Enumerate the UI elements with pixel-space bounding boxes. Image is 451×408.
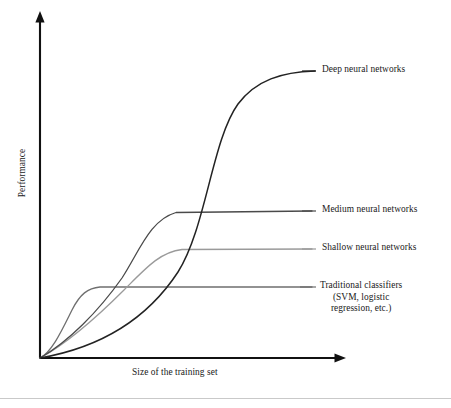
page-bottom-rule [0, 398, 451, 399]
curve-deep-neural-networks [40, 71, 315, 358]
series-label-medium-text: Medium neural networks [322, 204, 417, 216]
series-label-deep: Deep neural networks [322, 64, 405, 76]
series-label-traditional-line3: regression, etc.) [320, 303, 402, 315]
series-label-traditional-line2: (SVM, logistic [320, 292, 402, 304]
series-label-shallow-text: Shallow neural networks [322, 242, 416, 254]
x-axis-title: Size of the training set [132, 367, 218, 377]
series-label-traditional-line1: Traditional classifiers [320, 280, 402, 292]
series-label-medium: Medium neural networks [322, 204, 417, 216]
curve-medium-neural-networks [40, 211, 312, 358]
y-axis-arrow-icon [35, 11, 44, 23]
performance-vs-training-set-chart: Deep neural networks Medium neural netwo… [0, 0, 451, 408]
y-axis-title: Performance [17, 138, 27, 208]
series-label-traditional: Traditional classifiers (SVM, logistic r… [320, 280, 402, 315]
x-axis-arrow-icon [335, 353, 347, 362]
curve-shallow-neural-networks [40, 249, 312, 358]
series-label-shallow: Shallow neural networks [322, 242, 416, 254]
series-label-deep-text: Deep neural networks [322, 64, 405, 76]
